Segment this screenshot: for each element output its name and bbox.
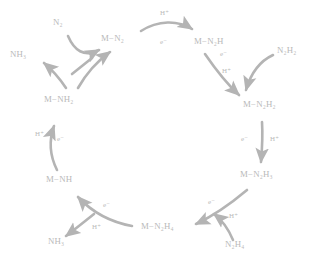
label-m-nh2: M−NH₂ [44, 95, 74, 104]
arrow-n2h2-in [246, 55, 273, 90]
label-m-nh: M−NH [46, 175, 72, 184]
arrow-mn2-to-mn2h [141, 22, 192, 31]
arrow-mn2h3-to-mn2h4 [196, 190, 247, 224]
label-electron-step4: e⁻ [208, 199, 215, 206]
label-n2h4: N₂H₄ [225, 240, 245, 249]
label-nh3-bottom: NH₃ [48, 237, 64, 246]
arrow-mnh-to-mnh2 [51, 126, 57, 170]
arrow-nh3-release-bottom [66, 214, 94, 236]
label-electron-step3: e⁻ [241, 136, 248, 143]
label-nh3-left: NH₃ [10, 50, 26, 59]
label-proton-step2: H⁺ [222, 68, 231, 75]
label-proton-step3: H⁺ [270, 136, 279, 143]
label-n2: N₂ [53, 18, 63, 27]
label-m-n2h4: M−N₂H₄ [141, 222, 174, 231]
label-proton-step1: H⁺ [160, 10, 169, 17]
label-m-n2: M−N₂ [101, 34, 124, 43]
label-electron-step5: e⁻ [103, 202, 110, 209]
arrow-mn2h2-to-mn2h3 [261, 122, 262, 162]
arrow-mnh3-to-mn2-blocked [78, 52, 110, 88]
label-electron-step6: e⁻ [57, 136, 64, 143]
label-m-n2h3: M−N₂H₃ [240, 170, 273, 179]
label-electron-step1: e⁻ [160, 39, 167, 46]
label-proton-step4: H⁺ [229, 213, 238, 220]
label-proton-step5: H⁺ [92, 224, 101, 231]
arrow-mnh2-to-nh3 [44, 63, 66, 88]
label-m-n2h: M−N₂H [194, 37, 224, 46]
label-electron-step2: e⁻ [220, 51, 227, 58]
label-m-n2h2: M−N₂H₂ [243, 100, 276, 109]
label-proton-step6: H⁺ [35, 131, 44, 138]
reaction-cycle-diagram: N₂ M−N₂ H⁺ e⁻ M−N₂H e⁻ H⁺ N₂H₂ M−N₂H₂ e⁻… [0, 0, 311, 260]
label-n2h2: N₂H₂ [277, 46, 297, 55]
arrow-n2-to-mn2 [68, 36, 99, 53]
